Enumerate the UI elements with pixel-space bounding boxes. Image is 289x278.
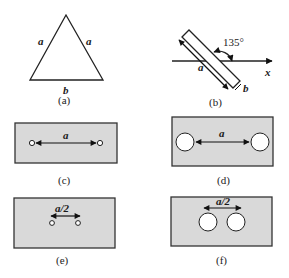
panel-a: a a b (a) bbox=[30, 15, 103, 107]
hole-left bbox=[29, 140, 34, 145]
panel-c: a (c) bbox=[15, 123, 117, 187]
distance-label: a bbox=[63, 129, 69, 141]
caption-d: (d) bbox=[217, 174, 230, 187]
panel-e: a/2 (e) bbox=[14, 198, 115, 267]
caption-c: (c) bbox=[58, 174, 71, 187]
distance-label: a/2 bbox=[55, 202, 70, 214]
figure-canvas: a a b (a) 135° a b x (b) a (c) a (d) bbox=[0, 0, 289, 278]
triangle-shape bbox=[30, 15, 103, 80]
side-label-left: a bbox=[38, 35, 44, 47]
hole-left bbox=[176, 133, 194, 151]
hole-right bbox=[76, 221, 81, 226]
angle-label: 135° bbox=[223, 36, 244, 48]
hole-left bbox=[199, 213, 217, 231]
hole-left bbox=[50, 221, 55, 226]
side-label-right: a bbox=[86, 35, 92, 47]
hole-right bbox=[97, 140, 102, 145]
hole-right bbox=[227, 213, 245, 231]
distance-label: a/2 bbox=[216, 195, 231, 207]
length-label: a bbox=[198, 61, 204, 73]
panel-d: a (d) bbox=[172, 117, 273, 187]
hole-right bbox=[251, 133, 269, 151]
caption-e: (e) bbox=[56, 254, 69, 267]
caption-a: (a) bbox=[58, 94, 71, 107]
caption-b: (b) bbox=[209, 96, 222, 109]
panel-b: 135° a b x (b) bbox=[172, 30, 272, 109]
caption-f: (f) bbox=[216, 254, 227, 267]
width-label: b bbox=[243, 82, 249, 94]
panel-f: a/2 (f) bbox=[171, 195, 272, 267]
distance-label: a bbox=[219, 127, 225, 139]
x-axis-label: x bbox=[264, 66, 271, 78]
